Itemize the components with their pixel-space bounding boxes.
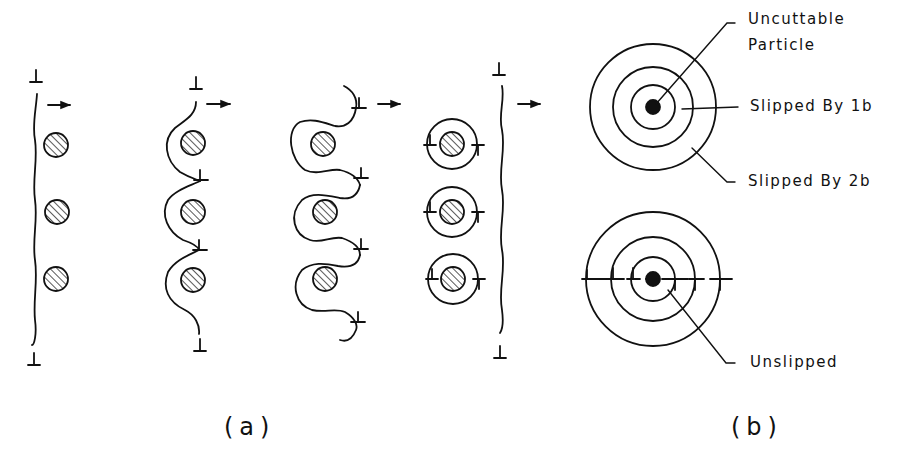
label-slipped-2b: Slipped By 2b bbox=[748, 172, 871, 190]
caption-a: (a) bbox=[224, 413, 275, 441]
stage-1-particles bbox=[44, 133, 69, 291]
stage-3-looping-dislocation bbox=[291, 86, 400, 341]
leader-lines-top bbox=[656, 23, 738, 182]
label-unslipped: Unslipped bbox=[750, 353, 838, 371]
stage-4-straight-dislocation bbox=[493, 63, 540, 358]
stage-2-particles bbox=[181, 131, 205, 292]
diagram-canvas bbox=[0, 0, 911, 460]
stage-4-particles bbox=[440, 132, 465, 291]
label-uncuttable-line2: Particle bbox=[748, 36, 815, 54]
label-uncuttable-line1: Uncuttable bbox=[748, 10, 845, 28]
concentric-circles-top bbox=[590, 44, 716, 170]
caption-b: (b) bbox=[731, 413, 783, 441]
label-slipped-1b: Slipped By 1b bbox=[750, 97, 873, 115]
stage-3-particles bbox=[311, 132, 337, 291]
